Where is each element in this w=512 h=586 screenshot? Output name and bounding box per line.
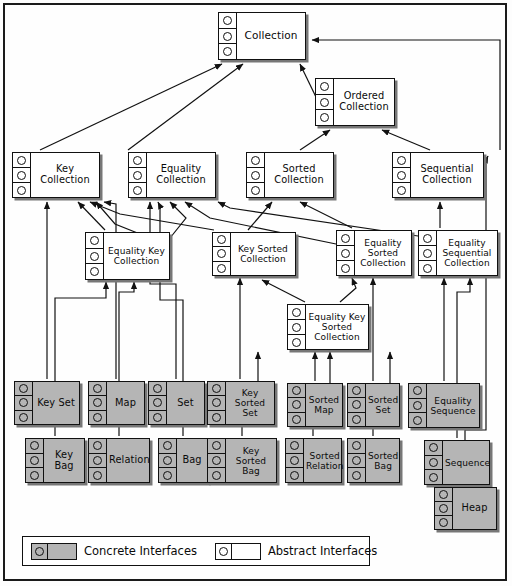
lollipop-icon <box>219 44 236 59</box>
node-relation[interactable]: Relation <box>88 438 150 483</box>
lollipop-icon <box>348 439 365 454</box>
lollipop-group <box>129 153 147 197</box>
lollipop-group <box>288 384 306 426</box>
lollipop-group <box>348 384 366 426</box>
lollipop-group <box>89 439 107 482</box>
node-sorted-map[interactable]: Sorted Map <box>287 383 343 427</box>
node-sequential-collection[interactable]: Sequential Collection <box>392 152 484 198</box>
node-collection[interactable]: Collection <box>218 12 306 60</box>
lollipop-icon <box>286 468 303 482</box>
lollipop-group <box>409 384 427 427</box>
lollipop-icon <box>409 413 426 427</box>
lollipop-icon <box>129 183 146 197</box>
lollipop-icon <box>286 439 303 454</box>
abstract-swatch-icon <box>215 543 261 560</box>
lollipop-icon <box>208 411 225 424</box>
lollipop-group <box>13 153 31 197</box>
lollipop-group <box>393 153 411 197</box>
lollipop-icon <box>419 246 436 261</box>
lollipop-group <box>247 153 265 197</box>
lollipop-icon <box>288 335 305 349</box>
lollipop-group <box>208 439 226 482</box>
node-key-collection[interactable]: Key Collection <box>12 152 100 198</box>
node-equality-collection[interactable]: Equality Collection <box>128 152 216 198</box>
lollipop-icon <box>89 382 106 396</box>
node-key-bag[interactable]: Key Bag <box>25 438 85 483</box>
node-key-sorted-set[interactable]: Key Sorted Set <box>207 381 275 425</box>
node-label: Key Collection <box>31 153 99 197</box>
lollipop-group <box>219 13 237 59</box>
node-label: Relation <box>107 439 152 482</box>
legend: Concrete Interfaces Abstract Interfaces <box>22 536 370 566</box>
node-equality-key-collection[interactable]: Equality Key Collection <box>85 232 170 280</box>
node-equality-sequence[interactable]: Equality Sequence <box>408 383 480 428</box>
lollipop-icon <box>425 441 442 456</box>
node-sorted-collection[interactable]: Sorted Collection <box>246 152 334 198</box>
node-label: Heap <box>453 488 496 529</box>
node-label: Ordered Collection <box>334 79 394 125</box>
lollipop-icon <box>26 439 43 454</box>
lollipop-icon <box>13 183 30 197</box>
node-map[interactable]: Map <box>88 381 145 425</box>
lollipop-icon <box>288 413 305 426</box>
node-sequence[interactable]: Sequence <box>424 440 490 485</box>
lollipop-icon <box>208 396 225 410</box>
lollipop-icon <box>288 305 305 320</box>
lollipop-group <box>89 382 107 424</box>
node-sorted-bag[interactable]: Sorted Bag <box>347 438 400 483</box>
lollipop-group <box>419 231 437 275</box>
node-ordered-collection[interactable]: Ordered Collection <box>315 78 395 126</box>
legend-item-concrete: Concrete Interfaces <box>31 543 215 560</box>
lollipop-icon <box>348 413 365 426</box>
node-key-sorted-collection[interactable]: Key Sorted Collection <box>212 232 296 276</box>
node-key-sorted-bag[interactable]: Key Sorted Bag <box>207 438 277 483</box>
lollipop-icon <box>337 231 354 246</box>
lollipop-icon <box>208 454 225 469</box>
lollipop-icon <box>159 439 176 454</box>
node-equality-key-sorted-collection[interactable]: Equality Key Sorted Collection <box>287 304 369 350</box>
diagram-frame <box>3 3 507 581</box>
node-sorted-set[interactable]: Sorted Set <box>347 383 400 427</box>
lollipop-icon <box>435 516 452 529</box>
lollipop-icon <box>393 153 410 168</box>
node-heap[interactable]: Heap <box>434 487 497 530</box>
node-equality-sorted-collection[interactable]: Equality Sorted Collection <box>336 230 412 276</box>
node-label: Map <box>107 382 144 424</box>
lollipop-icon <box>159 468 176 482</box>
lollipop-icon <box>409 384 426 399</box>
lollipop-group <box>435 488 453 529</box>
lollipop-icon <box>435 488 452 502</box>
lollipop-group <box>26 439 44 482</box>
node-label: Equality Key Sorted Collection <box>306 305 368 349</box>
lollipop-group <box>213 233 231 275</box>
node-label: Equality Sorted Collection <box>355 231 411 275</box>
lollipop-icon <box>149 396 166 410</box>
lollipop-icon <box>26 468 43 482</box>
node-sorted-relation[interactable]: Sorted Relation <box>285 438 342 483</box>
lollipop-icon <box>337 246 354 261</box>
legend-item-abstract: Abstract Interfaces <box>215 543 395 560</box>
lollipop-icon <box>13 153 30 168</box>
lollipop-icon <box>15 396 32 410</box>
node-label: Key Sorted Bag <box>226 439 276 482</box>
lollipop-icon <box>89 439 106 454</box>
lollipop-group <box>15 382 33 424</box>
lollipop-icon <box>208 468 225 482</box>
node-bag[interactable]: Bag <box>158 438 208 483</box>
node-label: Collection <box>237 13 305 59</box>
lollipop-group <box>316 79 334 125</box>
node-equality-sequential-collection[interactable]: Equality Sequential Collection <box>418 230 498 276</box>
node-label: Key Sorted Collection <box>231 233 295 275</box>
node-set[interactable]: Set <box>148 381 205 425</box>
lollipop-group <box>425 441 443 484</box>
lollipop-icon <box>213 233 230 247</box>
node-key-set[interactable]: Key Set <box>14 381 80 425</box>
lollipop-icon <box>393 183 410 197</box>
lollipop-icon <box>286 454 303 469</box>
legend-label-abstract: Abstract Interfaces <box>268 544 377 558</box>
lollipop-icon <box>129 168 146 183</box>
lollipop-icon <box>13 168 30 183</box>
lollipop-icon <box>348 384 365 398</box>
lollipop-icon <box>213 262 230 275</box>
node-label: Key Sorted Set <box>226 382 274 424</box>
